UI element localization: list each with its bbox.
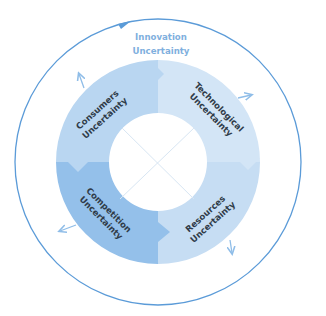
cycle-arrow-icon xyxy=(118,21,131,29)
outward-arrow-consumers-icon xyxy=(79,74,84,88)
title-line-2: Uncertainty xyxy=(133,46,190,56)
outward-arrow-technological-icon xyxy=(238,95,251,98)
outward-arrow-resources-icon xyxy=(230,240,232,253)
title-line-1: Innovation xyxy=(135,32,187,42)
outward-arrow-competition-icon xyxy=(60,225,76,231)
innovation-uncertainty-diagram: Innovation Uncertainty Consumers Uncerta… xyxy=(0,0,326,316)
